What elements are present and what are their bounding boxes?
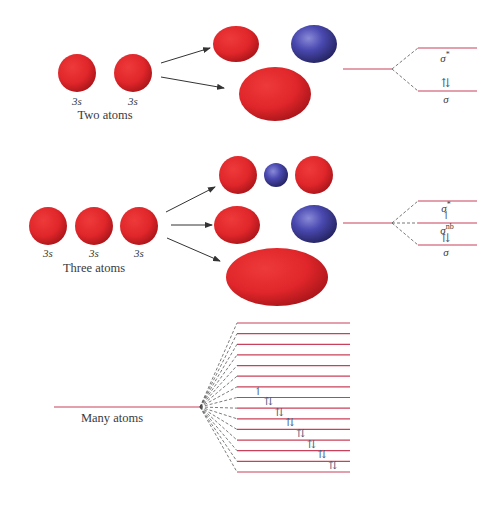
orbital-label: 3s [134,247,144,259]
electron-pair-icon: ⇅ [264,395,273,408]
orbital-label: 3s [43,247,53,259]
antibonding-mo-blue-lobe [264,163,288,187]
correlation-dash [200,407,237,461]
sigma-star-label: σ* [440,50,449,64]
correlation-dash [200,334,237,407]
correlation-dash [200,407,237,440]
electron-pair-icon: ⇅ [441,231,451,246]
orbital-label: 3s [89,247,99,259]
antibonding-mo-blue-lobe [291,25,337,63]
electron-pair-icon: ⇅ [328,459,337,472]
correlation-dash [392,201,418,223]
many-atoms-group [54,323,350,472]
bonding-mo [226,248,328,306]
electron-pair-icon: ⇅ [285,416,294,429]
correlation-dash [200,407,237,451]
two-atoms-caption: Two atoms [77,108,132,123]
correlation-dash [392,69,418,91]
orbital-label: 3s [128,95,138,107]
atom-3s-orbital [75,207,113,245]
electron-pair-icon: ⇅ [318,448,327,461]
two-atoms-group [58,25,477,121]
orbital-label: 3s [72,95,82,107]
three-atoms-group [29,156,477,306]
correlation-dash [200,323,237,407]
correlation-dash [200,407,237,408]
mo-band-diagram: 3s 3s Two atoms σ* ⇅ σ 3s 3s 3s Three at… [0,0,503,527]
electron-single-icon: ↿ [253,385,262,398]
correlation-dash [200,344,237,407]
correlation-dash [392,48,418,69]
atom-3s-orbital [120,207,158,245]
three-atoms-caption: Three atoms [63,261,125,276]
nonbonding-mo-blue-lobe [291,205,337,243]
sigma-label: σ [443,246,448,258]
arrow-icon [167,238,220,261]
correlation-dash [200,366,237,407]
arrow-icon [166,187,215,212]
antibonding-mo-red-lobe [213,26,259,62]
nonbonding-mo-red-lobe [214,206,260,244]
electron-single-icon: ↿ [441,209,450,222]
electron-pair-icon: ⇅ [307,438,316,451]
sigma-label: σ [443,93,448,105]
atom-3s-orbital [58,54,96,92]
correlation-dash [392,223,418,245]
arrow-icon [161,48,210,63]
correlation-dash [200,407,237,429]
arrow-icon [161,77,224,88]
atom-3s-orbital [29,207,67,245]
bonding-mo [239,67,311,121]
electron-pair-icon: ⇅ [441,76,451,91]
antibonding-mo-red-lobe [295,156,333,194]
many-atoms-caption: Many atoms [81,411,143,426]
electron-pair-icon: ⇅ [275,406,284,419]
antibonding-mo-red-lobe [219,156,257,194]
atom-3s-orbital [114,54,152,92]
electron-pair-icon: ⇅ [296,427,305,440]
